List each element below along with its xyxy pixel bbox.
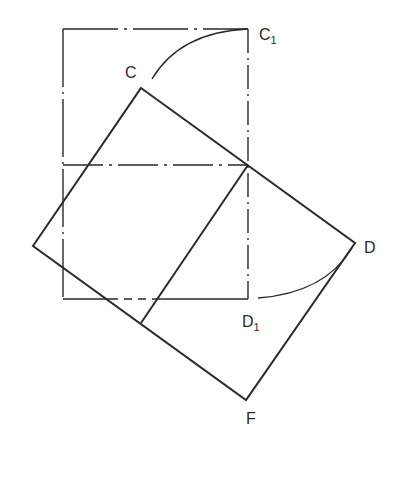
label-f: F bbox=[246, 410, 256, 427]
label-d: D bbox=[364, 239, 376, 256]
arc-d1-to-d bbox=[258, 248, 352, 298]
arc-c-to-c1 bbox=[152, 29, 248, 79]
label-d1: D1 bbox=[242, 313, 260, 333]
diagram-canvas: C C1 D D1 F bbox=[0, 0, 401, 483]
label-c: C bbox=[125, 64, 137, 81]
label-c1: C1 bbox=[259, 26, 277, 46]
